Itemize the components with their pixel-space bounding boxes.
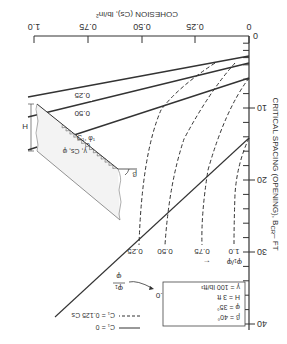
inset-body: γ, Cs, φ xyxy=(62,147,87,155)
legend-solid-label: C₁ = 0 xyxy=(96,324,115,331)
chart-figure: 0 0.25 0.50 0.75 1.0 COHESION (Cs), lb/i… xyxy=(0,0,287,344)
parameters-box: β = 40° φ = 35° H = 3 ft γ = 100 lb/ft³ xyxy=(163,282,245,326)
svg-text:0.75: 0.75 xyxy=(194,247,210,256)
svg-text:0.50: 0.50 xyxy=(157,247,173,256)
svg-text:β = 40°: β = 40° xyxy=(217,313,240,321)
svg-text:10: 10 xyxy=(257,103,267,113)
x-axis-label: COHESION (Cs), lb/in² xyxy=(96,10,178,19)
svg-text:←: ← xyxy=(203,258,211,267)
dashed-series xyxy=(139,63,249,245)
y-tick-labels: 0 10 20 30 40 xyxy=(253,31,267,329)
legend: C₁ = 0.125 Cs C₁ = 0 xyxy=(71,312,140,331)
dashed-line-labels: 0.25 0.50 0.75 1.0 xyxy=(127,247,240,256)
inset-surface-layer: C₁, φ₁ xyxy=(77,134,96,142)
line-solid-025 xyxy=(28,56,249,97)
svg-text:0.25: 0.25 xyxy=(74,91,90,100)
curve-dashed-050 xyxy=(165,63,235,245)
svg-text:φ₁: φ₁ xyxy=(115,284,123,293)
svg-text:0.25: 0.25 xyxy=(127,247,143,256)
svg-text:0.75: 0.75 xyxy=(79,22,97,32)
svg-text:20: 20 xyxy=(257,175,267,185)
y-axis-label: CRITICAL SPACING (OPENING), BCR– FT xyxy=(270,97,280,250)
ratio-callout: 1.0 φ₁ φ xyxy=(113,272,167,300)
chart-svg: 0 0.25 0.50 0.75 1.0 COHESION (Cs), lb/i… xyxy=(0,0,287,344)
curve-dashed-075 xyxy=(202,78,249,245)
svg-text:1.0: 1.0 xyxy=(228,247,240,256)
svg-text:φ = 35°: φ = 35° xyxy=(217,303,240,311)
svg-text:0.50: 0.50 xyxy=(74,109,90,118)
inset-thickness: H xyxy=(22,122,28,131)
legend-dashed-label: C₁ = 0.125 Cs xyxy=(71,312,115,319)
ratio-label: φ₁/φ ← xyxy=(203,258,242,267)
svg-text:φ: φ xyxy=(116,272,121,281)
svg-text:φ₁/φ: φ₁/φ xyxy=(227,258,242,267)
svg-text:H = 3 ft: H = 3 ft xyxy=(217,294,240,301)
svg-text:1.0: 1.0 xyxy=(28,22,41,32)
svg-text:0: 0 xyxy=(246,22,251,32)
x-ticks xyxy=(34,36,249,43)
inset-beta: β xyxy=(132,170,137,179)
svg-text:0.50: 0.50 xyxy=(133,22,151,32)
svg-text:40: 40 xyxy=(257,319,267,329)
curve-dashed-100 xyxy=(234,138,249,245)
solid-series xyxy=(28,56,249,317)
svg-text:0.25: 0.25 xyxy=(186,22,204,32)
line-solid-050 xyxy=(28,63,249,117)
slope-inset-diagram: β C₁, φ₁ γ, Cs, φ H xyxy=(22,104,137,220)
x-tick-labels: 0 0.25 0.50 0.75 1.0 xyxy=(28,22,252,32)
svg-text:30: 30 xyxy=(257,247,267,257)
svg-text:0: 0 xyxy=(253,31,258,41)
rotated-chart: 0 0.25 0.50 0.75 1.0 COHESION (Cs), lb/i… xyxy=(0,0,287,344)
svg-text:γ = 100 lb/ft³: γ = 100 lb/ft³ xyxy=(201,283,240,291)
curve-dashed-025 xyxy=(139,63,215,245)
